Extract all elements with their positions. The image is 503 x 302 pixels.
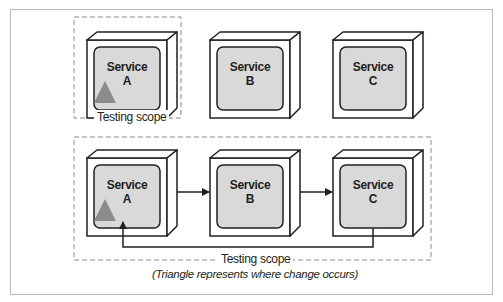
diagram-caption: (Triangle represents where change occurs…	[152, 268, 358, 280]
bottom-service-c-label: Service C	[340, 178, 406, 206]
service-id: C	[340, 74, 406, 88]
service-name: Service	[217, 178, 283, 192]
top-service-b-label: Service B	[217, 60, 283, 88]
top-service-c-label: Service C	[340, 60, 406, 88]
top-service-a-label: Service A	[94, 60, 160, 88]
top-scope-label: Testing scope	[94, 110, 169, 124]
service-id: A	[94, 74, 160, 88]
service-id: C	[340, 192, 406, 206]
bottom-service-a-label: Service A	[94, 178, 160, 206]
bottom-scope-label: Testing scope	[218, 252, 293, 266]
service-name: Service	[94, 60, 160, 74]
bottom-service-b-label: Service B	[217, 178, 283, 206]
service-id: A	[94, 192, 160, 206]
service-name: Service	[340, 60, 406, 74]
service-name: Service	[217, 60, 283, 74]
service-id: B	[217, 74, 283, 88]
service-id: B	[217, 192, 283, 206]
service-name: Service	[340, 178, 406, 192]
service-name: Service	[94, 178, 160, 192]
